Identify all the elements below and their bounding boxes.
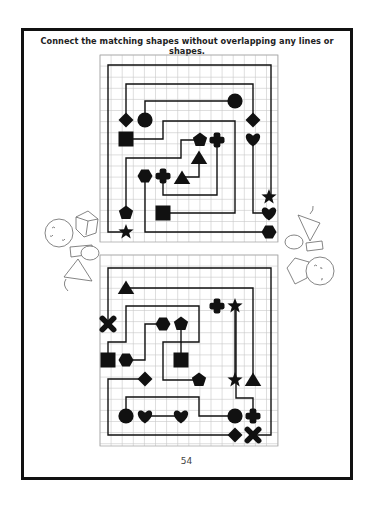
circle-icon [137,112,152,127]
square-icon [156,206,171,221]
heart-icon [246,133,260,146]
figure-head [306,257,334,285]
figure-hand [81,246,99,260]
circle-icon [227,93,242,108]
diamond-icon [246,113,261,128]
pentagon-icon [192,373,206,387]
cross-icon [156,173,171,180]
square-icon [101,353,116,368]
triangle-icon [191,151,208,165]
circle-icon [118,408,133,423]
diamond-icon [138,372,153,387]
figure-arm [306,241,323,251]
cartoon-figure-left [45,211,99,291]
circle-icon [227,408,242,423]
figure-hand [285,235,303,249]
cross-icon [210,303,225,310]
cross-icon [246,413,261,420]
top-puzzle-lines [108,65,271,232]
hexagon-icon [156,318,171,331]
diamond-icon [119,113,134,128]
path-diamond [108,379,235,435]
hexagon-icon [262,226,277,239]
star-icon [261,189,276,203]
pentagon-icon [174,317,188,331]
figure-tail [64,279,68,291]
figure-head [45,219,73,247]
diamond-icon [228,428,243,443]
star-icon [118,224,133,238]
path-cross [163,140,217,195]
path-star [108,65,271,232]
figure-tail [310,206,313,214]
puzzle-canvas [0,0,373,507]
square-icon [119,132,134,147]
heart-icon [262,207,276,220]
cross-icon [210,137,225,144]
figure-box [76,211,98,237]
hexagon-icon [119,354,134,367]
bottom-puzzle-shapes [101,281,262,443]
figure-cone [64,259,92,281]
pentagon-icon [193,133,207,147]
triangle-icon [245,373,262,387]
square-icon [174,353,189,368]
star-icon [227,372,242,386]
figure-cone [298,215,320,241]
triangle-icon [118,281,135,295]
x-icon [102,318,113,329]
cartoon-figure-right [285,206,334,285]
page-number: 54 [0,456,373,466]
hexagon-icon [138,170,153,183]
x-icon [247,429,258,440]
pentagon-icon [119,206,133,220]
